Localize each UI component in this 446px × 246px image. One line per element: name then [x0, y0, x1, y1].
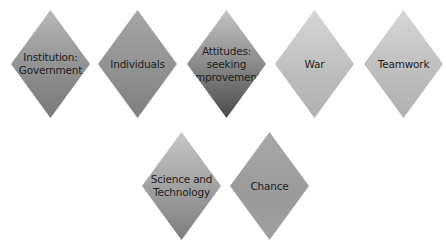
- diamond-label: Institution: Government: [19, 51, 82, 77]
- diamond-attitudes: Attitudes: seeking improvement: [187, 10, 266, 118]
- diamond-label: Chance: [250, 180, 288, 193]
- diamond-label: Science and Technology: [151, 173, 213, 199]
- diamond-chance: Chance: [230, 132, 309, 240]
- diamond-individuals: Individuals: [98, 10, 177, 118]
- diamond-institution-government: Institution: Government: [11, 10, 90, 118]
- diamond-teamwork: Teamwork: [364, 10, 443, 118]
- diamond-label: Individuals: [110, 58, 164, 71]
- diamond-science-technology: Science and Technology: [142, 132, 221, 240]
- diamond-label: Attitudes: seeking improvement: [192, 45, 260, 84]
- diamond-war: War: [275, 10, 354, 118]
- diamond-label: War: [305, 58, 325, 71]
- diamond-label: Teamwork: [378, 58, 430, 71]
